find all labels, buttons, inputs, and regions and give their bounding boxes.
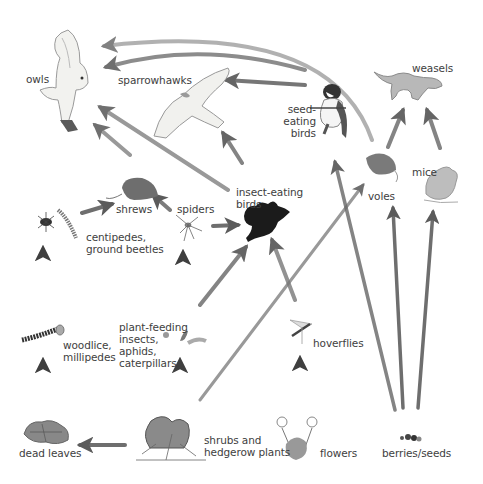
arrow-shrews-to-owls xyxy=(95,125,130,155)
arrow-spiders-to-insect-birds xyxy=(213,225,238,226)
label-mice: mice xyxy=(412,166,437,178)
hoverfly-icon xyxy=(290,320,312,344)
arrow-seed-birds-to-sparrowhawks xyxy=(226,80,305,85)
dead-leaves-icon xyxy=(24,421,68,444)
arrow-plant-insects-to-insect-birds xyxy=(200,247,246,305)
arrow-berries-to-voles xyxy=(393,208,403,408)
label-seed-eating-birds: seed- eating birds xyxy=(282,103,316,139)
beetle-centipede-icon xyxy=(38,210,76,238)
arrow-berries-to-mice xyxy=(418,212,433,408)
label-hoverflies: hoverflies xyxy=(313,337,364,349)
label-flowers: flowers xyxy=(320,447,357,459)
weasel-icon xyxy=(374,72,442,100)
label-spiders: spiders xyxy=(177,203,214,215)
food-web-diagram xyxy=(0,0,483,484)
vole-icon xyxy=(366,154,398,183)
arrow-centipedes-to-shrews xyxy=(82,204,112,213)
label-plant-feeding-insects: plant-feeding insects, aphids, caterpill… xyxy=(119,321,188,369)
label-woodlice-millipedes: woodlice, millipedes xyxy=(63,339,116,363)
label-voles: voles xyxy=(368,190,395,202)
label-berries-seeds: berries/seeds xyxy=(382,447,451,459)
shrew-icon xyxy=(106,178,158,200)
berries-seeds-icon xyxy=(400,434,422,442)
label-shrews: shrews xyxy=(116,203,152,215)
label-sparrowhawks: sparrowhawks xyxy=(118,74,192,86)
arrow-insect-birds-to-sparrowhawks xyxy=(223,133,242,163)
label-dead-leaves: dead leaves xyxy=(19,447,81,459)
label-weasels: weasels xyxy=(412,62,453,74)
label-insect-eating-birds: insect-eating birds xyxy=(236,186,303,210)
arrow-mice-to-weasels xyxy=(427,110,440,148)
label-centipedes-ground-beetles: centipedes, ground beetles xyxy=(86,231,164,255)
arrow-spiders-to-shrews xyxy=(153,195,170,210)
arrow-seed-birds-to-owls xyxy=(106,54,305,70)
arrow-voles-to-weasels xyxy=(388,110,403,147)
spider-icon xyxy=(176,215,202,241)
shrubs-icon xyxy=(136,417,206,460)
label-owls: owls xyxy=(26,73,49,85)
label-shrubs-hedgerow-plants: shrubs and hedgerow plants xyxy=(204,434,290,458)
woodlouse-millipede-icon xyxy=(22,325,64,340)
